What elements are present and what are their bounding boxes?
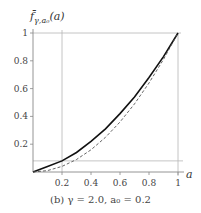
series: [33, 33, 178, 172]
figure-caption: (b) γ = 2.0, a₀ = 0.2: [0, 194, 201, 205]
x-tick-label: 0.2: [55, 178, 69, 188]
tick-labels: 0.20.40.60.810.20.40.60.81: [14, 28, 181, 188]
reference-lines: [33, 30, 183, 176]
y-tick-label: 0.2: [14, 139, 28, 149]
x-tick-label: 0.4: [84, 178, 99, 188]
y-tick-label: 1: [22, 28, 28, 38]
x-tick-label: 1: [175, 178, 181, 188]
y-axis-label: f̄γ,a₀(a): [29, 10, 65, 25]
chart: 0.20.40.60.810.20.40.60.81 f̄γ,a₀(a) a: [0, 0, 201, 213]
series-dashed-line: [33, 33, 178, 172]
x-tick-label: 0.8: [142, 178, 157, 188]
x-tick-label: 0.6: [113, 178, 128, 188]
y-tick-label: 0.6: [14, 84, 29, 94]
series-solid-line: [33, 33, 178, 172]
y-tick-label: 0.4: [14, 111, 29, 121]
x-axis-label: a: [186, 168, 193, 181]
axes: [30, 29, 184, 175]
y-tick-label: 0.8: [14, 56, 29, 66]
